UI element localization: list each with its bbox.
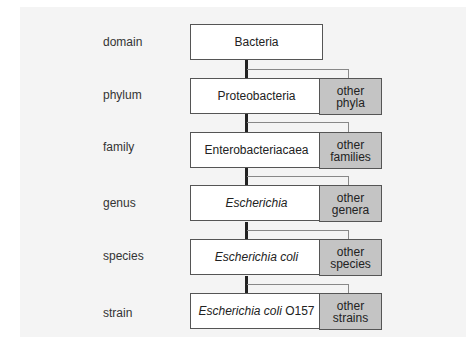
rank-label-strain: strain <box>103 306 132 320</box>
other-label-line2: genera <box>332 204 369 216</box>
branch-connector <box>348 176 349 185</box>
other-label-line1: other <box>337 85 364 97</box>
taxon-box-strain: Escherichia coli O157 <box>190 293 323 329</box>
taxon-box-phylum: Proteobacteria <box>190 78 323 114</box>
branch-connector <box>247 176 348 177</box>
branch-connector <box>247 284 348 285</box>
branch-connector <box>348 230 349 239</box>
other-box-families: other families <box>319 132 382 169</box>
other-box-genera: other genera <box>319 185 382 222</box>
taxon-box-genus: Escherichia <box>190 185 323 221</box>
other-label-line1: other <box>337 246 364 258</box>
taxon-label-strain-code: O157 <box>282 304 315 318</box>
other-label-line1: other <box>337 139 364 151</box>
other-label-line2: strains <box>333 312 368 324</box>
taxon-label: Enterobacteriacaea <box>204 143 308 157</box>
branch-connector <box>247 230 348 231</box>
taxon-label: Proteobacteria <box>217 89 295 103</box>
other-label-line2: species <box>330 258 371 270</box>
taxon-box-domain: Bacteria <box>190 24 323 60</box>
rank-label-species: species <box>103 249 144 263</box>
trunk-connector <box>245 114 248 132</box>
rank-label-family: family <box>103 140 134 154</box>
branch-connector <box>348 69 349 78</box>
taxon-label: Escherichia coli <box>215 250 298 264</box>
other-label-line1: other <box>337 192 364 204</box>
taxon-label: Bacteria <box>234 35 278 49</box>
taxon-label: Escherichia <box>225 196 287 210</box>
other-label-line1: other <box>337 300 364 312</box>
other-box-phyla: other phyla <box>319 78 382 115</box>
taxon-box-species: Escherichia coli <box>190 239 323 275</box>
other-box-strains: other strains <box>319 293 382 330</box>
branch-connector <box>348 284 349 293</box>
taxon-box-family: Enterobacteriacaea <box>190 132 323 168</box>
branch-connector <box>247 69 348 70</box>
branch-connector <box>247 122 348 123</box>
other-label-line2: phyla <box>336 97 365 109</box>
branch-connector <box>348 122 349 132</box>
other-label-line2: families <box>330 151 371 163</box>
rank-label-genus: genus <box>103 196 136 210</box>
taxon-label-italic: Escherichia coli <box>198 304 281 318</box>
rank-label-phylum: phylum <box>103 88 142 102</box>
rank-label-domain: domain <box>103 35 142 49</box>
other-box-species: other species <box>319 239 382 276</box>
